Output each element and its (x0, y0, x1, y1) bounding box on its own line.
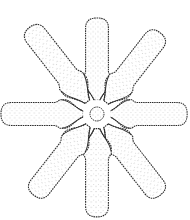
radial-organism-illustration (0, 0, 190, 220)
arm-left (1, 100, 83, 129)
arm-right (110, 100, 187, 129)
central-core (90, 107, 104, 121)
organism-body (1, 18, 187, 217)
